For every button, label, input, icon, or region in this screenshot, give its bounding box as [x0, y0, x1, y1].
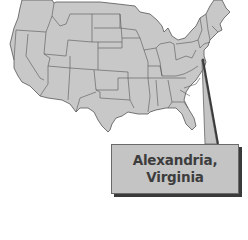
- callout-city: Alexandria,: [133, 152, 218, 169]
- location-callout: Alexandria, Virginia: [111, 144, 239, 194]
- callout-state: Virginia: [146, 169, 204, 186]
- location-marker: [202, 59, 205, 62]
